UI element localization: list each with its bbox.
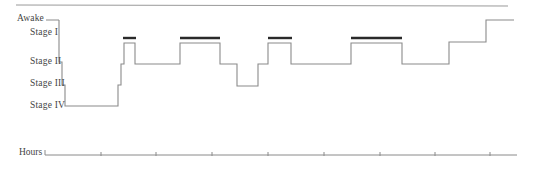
- y-label-stage-2: Stage II: [30, 56, 61, 66]
- hours-axis: [45, 150, 517, 156]
- y-label-stage-3: Stage III: [30, 78, 65, 88]
- y-label-stage-1: Stage I: [30, 27, 58, 37]
- top-rule: [16, 5, 508, 6]
- y-label-awake: Awake: [17, 13, 44, 23]
- hypnogram-chart: Awake Stage I Stage II Stage III Stage I…: [0, 0, 538, 169]
- x-axis-label-hours: Hours: [19, 147, 42, 157]
- sleep-stage-trace: [59, 20, 514, 106]
- y-label-stage-4: Stage IV: [30, 100, 65, 110]
- hypnogram-svg: [0, 0, 538, 169]
